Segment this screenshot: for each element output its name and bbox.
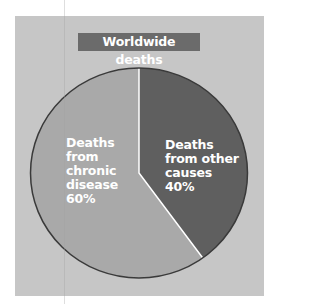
label-line: Deaths bbox=[165, 138, 239, 152]
label-percent: 60% bbox=[66, 192, 118, 206]
label-chronic-disease: Deaths from chronic disease 60% bbox=[66, 136, 118, 206]
label-line: Deaths bbox=[66, 136, 118, 150]
scan-artifact-line bbox=[64, 0, 65, 304]
label-line: from bbox=[66, 150, 118, 164]
label-line: causes bbox=[165, 166, 239, 180]
label-percent: 40% bbox=[165, 180, 239, 194]
label-line: disease bbox=[66, 178, 118, 192]
label-line: from other bbox=[165, 152, 239, 166]
label-other-causes: Deaths from other causes 40% bbox=[165, 138, 239, 194]
label-line: chronic bbox=[66, 164, 118, 178]
